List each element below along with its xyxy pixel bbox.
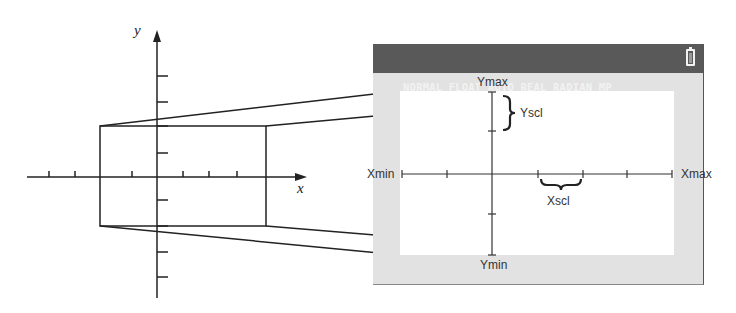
ymax-label: Ymax [477,75,508,89]
xmax-label: Xmax [681,167,712,181]
x-axis-label: x [297,180,304,197]
y-axis-arrow-icon [153,30,161,42]
xmin-label: Xmin [367,167,394,181]
projection-lines [100,91,400,255]
y-axis-label: y [134,22,141,39]
xscl-label: Xscl [547,194,570,208]
ymin-label: Ymin [480,258,507,272]
yscl-label: Yscl [520,106,543,120]
battery-icon [686,49,695,66]
status-bar: NORMAL FLOAT AUTO REAL RADIAN MP [373,44,703,73]
calculator-screen: NORMAL FLOAT AUTO REAL RADIAN MP [373,44,704,285]
x-axis-ticks [49,171,237,177]
